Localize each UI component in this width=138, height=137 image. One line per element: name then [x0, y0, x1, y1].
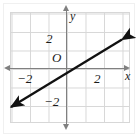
x-axis-tick-label-neg2: −2: [17, 72, 32, 85]
x-axis-tick-label-2: 2: [94, 72, 101, 85]
x-axis-label: x: [125, 70, 130, 82]
origin-label: O: [52, 51, 61, 64]
y-axis-tick-label-2: 2: [46, 32, 53, 45]
y-axis-label: y: [70, 10, 75, 22]
coordinate-plane-figure: 2 −2 −2 2 O y x: [0, 0, 138, 137]
plotted-line: [0, 0, 138, 137]
y-axis-tick-label-neg2: −2: [44, 95, 59, 108]
